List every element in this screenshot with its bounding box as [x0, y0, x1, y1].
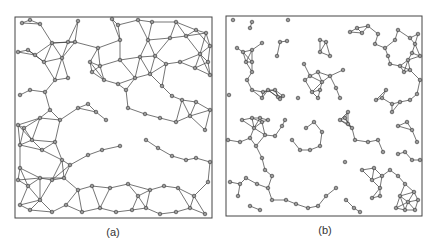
graph-node: [240, 118, 244, 122]
graph-node: [255, 182, 259, 186]
graph-node: [412, 190, 416, 194]
graph-node: [250, 70, 254, 74]
graph-node: [376, 32, 380, 36]
graph-node: [238, 182, 242, 186]
graph-node: [396, 174, 400, 178]
graph-node: [250, 60, 254, 64]
graph-node: [353, 138, 357, 142]
graph-node: [366, 24, 370, 28]
graph-node: [236, 194, 240, 198]
graph-node: [296, 96, 300, 100]
graph-node: [386, 54, 390, 58]
graph-node: [403, 150, 407, 154]
graph-node: [308, 148, 312, 152]
graph-node: [238, 140, 242, 144]
graph-node: [260, 120, 264, 124]
graph-node: [360, 31, 364, 35]
graph-node: [396, 152, 400, 156]
graph-node: [360, 168, 364, 172]
graph-node: [416, 32, 420, 36]
graph-node: [408, 98, 412, 102]
graph-node: [248, 26, 252, 30]
graph-node: [310, 90, 314, 94]
graph-node: [346, 122, 350, 126]
graph-b-canvas: [0, 0, 437, 252]
graph-node: [248, 136, 252, 140]
graph-node: [283, 118, 287, 122]
graph-node: [226, 138, 230, 142]
graph-node: [281, 94, 285, 98]
graph-node: [378, 194, 382, 198]
graph-node: [298, 148, 302, 152]
graph-node: [350, 126, 354, 130]
graph-node: [370, 196, 374, 200]
graph-node: [308, 74, 312, 78]
graph-node: [338, 96, 342, 100]
graph-node: [318, 50, 322, 54]
graph-node: [405, 120, 409, 124]
graph-node: [343, 116, 347, 120]
graph-node: [320, 130, 324, 134]
graph-node: [285, 39, 289, 43]
graph-node: [344, 198, 348, 202]
graph-node: [318, 144, 322, 148]
graph-node: [273, 134, 277, 138]
graph-node: [388, 168, 392, 172]
graph-node: [258, 116, 262, 120]
graph-node: [383, 46, 387, 50]
graph-node: [393, 38, 397, 42]
graph-node: [406, 58, 410, 62]
graph-node: [334, 86, 338, 90]
graph-node: [316, 204, 320, 208]
graph-node: [388, 62, 392, 66]
graph-node: [334, 186, 338, 190]
graph-node: [235, 46, 239, 50]
graph-node: [352, 206, 356, 210]
graph-node: [260, 96, 264, 100]
figure-panel-b: (b): [0, 0, 437, 252]
graph-node: [260, 156, 264, 160]
graph-node: [250, 20, 254, 24]
graph-node: [403, 182, 407, 186]
graph-node: [372, 166, 376, 170]
graph-node: [398, 100, 402, 104]
graph-node: [244, 176, 248, 180]
graph-node: [318, 88, 322, 92]
graph-node: [348, 30, 352, 34]
graph-node: [228, 180, 232, 184]
graph-node: [286, 18, 290, 22]
graph-node: [410, 51, 414, 55]
graph-node: [270, 198, 274, 202]
graph-node: [306, 206, 310, 210]
graph-node: [290, 138, 294, 142]
graph-node: [410, 158, 414, 162]
graph-node: [338, 118, 342, 122]
graph-node: [280, 124, 284, 128]
graph-node: [263, 168, 267, 172]
graph-node: [410, 128, 414, 132]
graph-node: [227, 93, 231, 97]
graph-node: [250, 88, 254, 92]
graph-node: [394, 206, 398, 210]
graph-node: [390, 102, 394, 106]
graph-node: [380, 174, 384, 178]
graph-node: [316, 70, 320, 74]
graph-node: [244, 60, 248, 64]
graph-node: [413, 208, 417, 212]
graph-node: [294, 202, 298, 206]
graph-node: [408, 68, 412, 72]
graph-node: [320, 80, 324, 84]
graph-node: [250, 116, 254, 120]
graph-node: [376, 138, 380, 142]
graph-node: [266, 118, 270, 122]
graph-node: [303, 78, 307, 82]
graph-node: [415, 92, 419, 96]
graph-node: [304, 126, 308, 130]
graph-node: [245, 78, 249, 82]
graph-node: [384, 88, 388, 92]
graph-node: [413, 42, 417, 46]
graph-node: [415, 140, 419, 144]
graph-node: [278, 97, 282, 101]
graph-node: [390, 110, 394, 114]
graph-node: [346, 110, 350, 114]
